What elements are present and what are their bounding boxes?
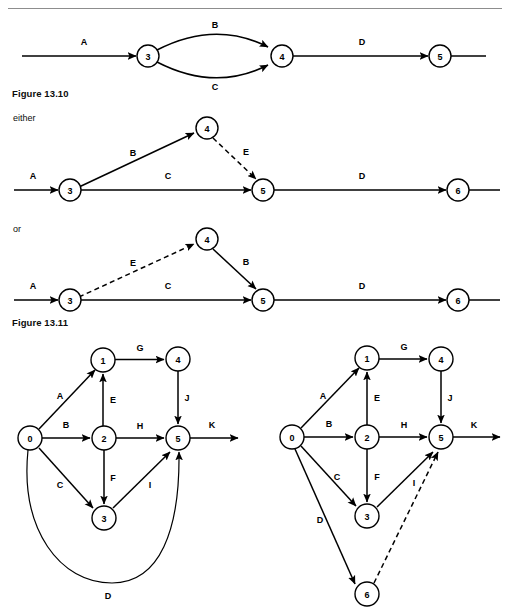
edge-label-G: G (136, 343, 143, 353)
edge-label-K: K (471, 420, 478, 430)
edge-label-K: K (209, 420, 216, 430)
edge-E-dummy (79, 244, 194, 297)
node-1-label: 1 (364, 354, 369, 364)
edge-B (79, 133, 194, 187)
edge-label-I: I (149, 480, 152, 490)
page-canvas: 3 4 5 A B C D 3 4 5 6 A B (0, 0, 508, 607)
edge-label-E: E (374, 393, 380, 403)
edge-I-dummy (374, 452, 438, 583)
edge-label-E: E (110, 395, 116, 405)
edge-label-A: A (30, 171, 37, 181)
node-3-label: 3 (67, 186, 72, 196)
node-1-label: 1 (100, 356, 105, 366)
caption-figure-13-11: Figure 13.11 (12, 317, 68, 328)
edge-label-C: C (212, 82, 219, 92)
edge-label-F: F (110, 473, 116, 483)
edge-label-D: D (317, 515, 324, 525)
edge-C (301, 446, 356, 506)
node-6-label: 6 (364, 590, 369, 600)
label-or: or (13, 224, 21, 234)
edge-label-D: D (105, 591, 112, 601)
edge-label-A: A (320, 391, 327, 401)
edge-label-E: E (243, 147, 249, 157)
edge-label-C: C (334, 472, 341, 482)
edge-C (39, 448, 93, 508)
edge-label-A: A (30, 281, 37, 291)
edge-label-A: A (57, 391, 64, 401)
node-3-label: 3 (101, 514, 106, 524)
node-6-label: 6 (455, 296, 460, 306)
label-either: either (13, 113, 36, 123)
edge-I (113, 452, 170, 508)
node-5-label: 5 (438, 433, 443, 443)
edge-label-H: H (401, 420, 408, 430)
edge-label-D: D (359, 281, 366, 291)
edge-label-B: B (63, 420, 70, 430)
edge-label-I: I (413, 478, 416, 488)
node-5-label: 5 (437, 52, 442, 62)
edge-label-G: G (400, 342, 407, 352)
edge-label-C: C (165, 281, 172, 291)
caption-figure-13-10: Figure 13.10 (12, 88, 69, 99)
edge-label-B: B (326, 419, 333, 429)
node-5-label: 5 (260, 296, 265, 306)
edge-E-dummy (213, 138, 256, 179)
node-4-label: 4 (204, 124, 209, 134)
edge-label-C: C (165, 171, 172, 181)
node-4-label: 4 (175, 355, 180, 365)
figure-13-11-either-group: 3 4 5 6 A B E C D (14, 117, 500, 201)
edge-C (157, 62, 268, 78)
figure-13-10-group: 3 4 5 A B C D (22, 20, 486, 92)
edge-B (213, 249, 256, 289)
node-2-label: 2 (101, 434, 106, 444)
node-5-label: 5 (175, 434, 180, 444)
node-3-label: 3 (364, 512, 369, 522)
edge-label-A: A (81, 37, 88, 47)
edge-D (295, 449, 355, 584)
node-4-label: 4 (204, 235, 209, 245)
edge-label-D: D (359, 171, 366, 181)
node-0-label: 0 (289, 433, 294, 443)
node-3-label: 3 (67, 296, 72, 306)
edge-label-B: B (130, 148, 137, 158)
node-0-label: 0 (27, 434, 32, 444)
node-4-label: 4 (279, 52, 284, 62)
figure-13-11-or-group: 3 4 5 6 A E B C D (14, 228, 500, 311)
node-3-label: 3 (145, 52, 150, 62)
edge-label-E: E (130, 258, 136, 268)
node-4-label: 4 (438, 355, 443, 365)
node-2-label: 2 (364, 433, 369, 443)
figure-right-network-group: 0 1 2 3 4 5 6 A B C D E F G H I J K (280, 342, 500, 606)
node-6-label: 6 (455, 186, 460, 196)
figure-left-network-group: 0 1 2 3 4 5 A B C D E F G H I J K (18, 343, 238, 601)
edge-label-J: J (184, 393, 189, 403)
node-5-label: 5 (260, 186, 265, 196)
edge-label-D: D (359, 37, 366, 47)
edge-label-C: C (57, 480, 64, 490)
edge-label-B: B (212, 20, 219, 30)
figure-13-10-diagram: 3 4 5 A B C D 3 4 5 6 A B (0, 0, 508, 607)
edge-label-J: J (447, 393, 452, 403)
edge-B (157, 34, 268, 50)
edge-label-F: F (374, 472, 380, 482)
edge-label-B: B (243, 257, 250, 267)
edge-label-H: H (137, 421, 144, 431)
